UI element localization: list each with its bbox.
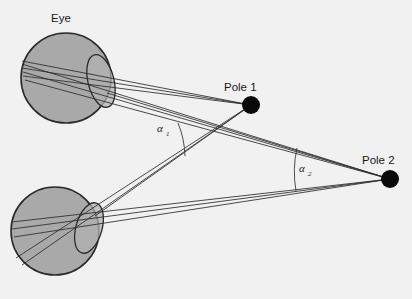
- alpha-1-subscript: 1: [166, 130, 170, 138]
- pole-1-label: Pole 1: [224, 81, 257, 93]
- diagram-canvas: Eye Pole 1 Pole 2 α 1 α 2: [0, 0, 412, 299]
- alpha-1-label: α: [157, 122, 163, 134]
- optics-diagram: Eye Pole 1 Pole 2 α 1 α 2: [0, 0, 412, 299]
- alpha-2-label: α: [299, 162, 305, 174]
- pole-2-label: Pole 2: [362, 154, 395, 166]
- pole-1-dot: [242, 96, 260, 114]
- alpha-2-subscript: 2: [308, 170, 312, 178]
- pole-2-dot: [381, 170, 399, 188]
- eye-label: Eye: [51, 12, 71, 24]
